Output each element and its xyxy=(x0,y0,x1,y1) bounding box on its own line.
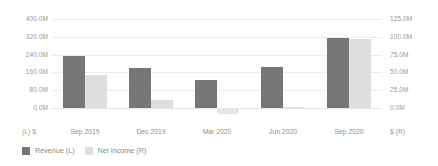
left-axis-tick-400: 400.0M xyxy=(26,16,48,23)
right-axis-tick-75: 75.0M xyxy=(390,52,409,59)
right-axis-tick-25: 25.0M xyxy=(390,87,409,94)
x-axis-labels: Sep 2019 Dec 2019 Mar 2020 Jun 2020 Sep … xyxy=(52,127,382,137)
bar-revenue-dec-2019[interactable] xyxy=(129,68,151,109)
bar-net-income-sep-2019[interactable] xyxy=(85,75,107,108)
bar-group-jun-2020 xyxy=(250,19,316,108)
x-axis-label-jun-2020: Jun 2020 xyxy=(250,127,316,137)
left-axis-tick-80: 80.0M xyxy=(29,87,48,94)
bar-groups xyxy=(52,19,382,108)
legend-label-net-income: Net Income (R) xyxy=(98,147,147,155)
bar-group-sep-2019 xyxy=(52,19,118,108)
left-axis-unit-caption: (L) $ xyxy=(22,127,36,137)
x-axis-label-mar-2020: Mar 2020 xyxy=(184,127,250,137)
chart-legend: Revenue (L) Net Income (R) xyxy=(22,147,146,155)
right-axis-tick-50: 50.0M xyxy=(390,69,409,76)
x-axis-label-dec-2019: Dec 2019 xyxy=(118,127,184,137)
legend-item-revenue[interactable]: Revenue (L) xyxy=(22,147,75,155)
right-axis-tick-0: 0.0M xyxy=(390,105,405,112)
bar-revenue-sep-2019[interactable] xyxy=(63,56,85,108)
bar-net-income-dec-2019[interactable] xyxy=(151,100,173,108)
bar-revenue-sep-2020[interactable] xyxy=(327,38,349,108)
bar-net-income-mar-2020[interactable] xyxy=(217,108,239,114)
bar-net-income-sep-2020[interactable] xyxy=(349,39,371,108)
legend-swatch-revenue-icon xyxy=(22,147,30,155)
right-axis-tick-125: 125.0M xyxy=(390,16,412,23)
legend-swatch-net-income-icon xyxy=(85,147,93,155)
bar-revenue-mar-2020[interactable] xyxy=(195,80,217,108)
x-axis-label-sep-2020: Sep 2020 xyxy=(316,127,382,137)
legend-item-net-income[interactable]: Net Income (R) xyxy=(85,147,147,155)
right-axis-unit-caption: $ (R) xyxy=(390,127,405,137)
left-axis-tick-160: 160.0M xyxy=(26,69,48,76)
left-axis-tick-0: 0.0M xyxy=(33,105,48,112)
left-axis-tick-320: 320.0M xyxy=(26,34,48,41)
bar-group-sep-2020 xyxy=(316,19,382,108)
bar-net-income-jun-2020[interactable] xyxy=(283,107,305,108)
left-axis-tick-240: 240.0M xyxy=(26,52,48,59)
bar-group-dec-2019 xyxy=(118,19,184,108)
legend-label-revenue: Revenue (L) xyxy=(35,147,75,155)
bar-group-mar-2020 xyxy=(184,19,250,108)
right-axis-tick-100: 100.0M xyxy=(390,34,412,41)
x-axis-label-sep-2019: Sep 2019 xyxy=(52,127,118,137)
bar-revenue-jun-2020[interactable] xyxy=(261,67,283,108)
dual-axis-bar-chart: 400.0M 320.0M 240.0M 160.0M 80.0M 0.0M 1… xyxy=(0,0,438,166)
